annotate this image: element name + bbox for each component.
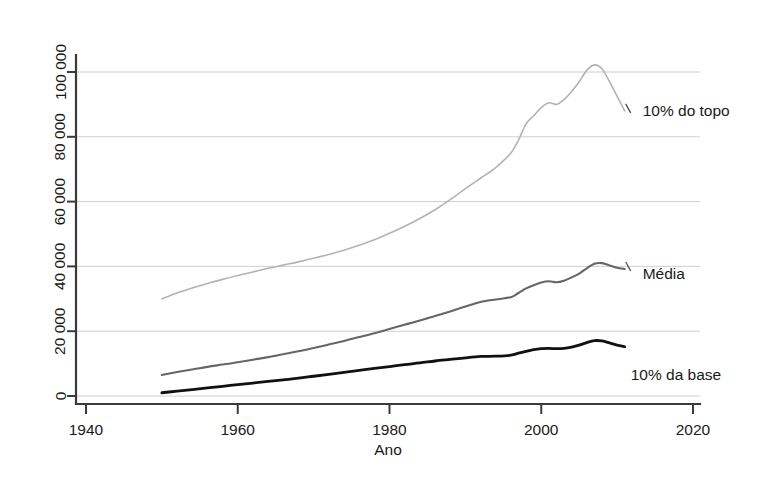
series-label-10-da-base: 10% da base (631, 366, 722, 383)
y-tick-label: 60 000 (52, 178, 69, 226)
x-tick-label: 1980 (372, 421, 407, 438)
series-label-10-do-topo: 10% do topo (643, 102, 730, 119)
line-chart: 020 00040 00060 00080 000100 000 1940196… (0, 0, 757, 483)
y-axis-tick-labels: 020 00040 00060 00080 000100 000 (52, 44, 69, 401)
y-tick-label: 0 (52, 391, 69, 400)
y-tick-label: 40 000 (52, 242, 69, 290)
y-tick-label: 20 000 (52, 307, 69, 355)
x-tick-label: 2020 (676, 421, 711, 438)
chart-figure: 020 00040 00060 00080 000100 000 1940196… (0, 0, 757, 483)
y-tick-label: 100 000 (52, 44, 69, 100)
x-tick-label: 2000 (524, 421, 559, 438)
series-label-m-dia: Média (643, 265, 686, 282)
y-tick-label: 80 000 (52, 113, 69, 161)
x-axis-title: Ano (374, 441, 402, 458)
x-tick-label: 1960 (221, 421, 256, 438)
x-tick-label: 1940 (69, 421, 104, 438)
